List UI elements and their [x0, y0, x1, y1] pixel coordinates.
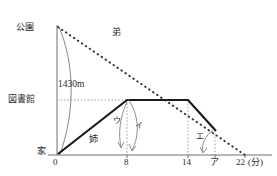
brother-label: 弟 [112, 28, 121, 37]
arrow-u-head [118, 142, 124, 148]
sister-label: 姉 [89, 135, 98, 144]
x-axis-unit: (分) [248, 158, 263, 167]
distance-time-graph-figure: 公園 図書館 家 0 8 14 ア 22 (分) 1430m 弟 姉 ウ イ エ [0, 0, 277, 176]
arrow-label-e: エ [196, 133, 204, 141]
x-label-22: 22 [236, 158, 245, 167]
distance-label-1430m: 1430m [58, 80, 84, 90]
arrow-e-head [200, 147, 207, 153]
y-label-park: 公園 [16, 23, 34, 32]
y-label-library: 図書館 [8, 95, 35, 104]
arrow-label-u: ウ [113, 117, 121, 125]
x-label-8: 8 [124, 158, 129, 167]
arrow-label-i: イ [135, 122, 143, 130]
y-label-home: 家 [37, 147, 46, 156]
x-label-0: 0 [53, 158, 58, 167]
arrow-i-head [129, 144, 136, 151]
x-label-a: ア [210, 158, 219, 167]
distance-brace-1430m [59, 27, 71, 154]
x-label-14: 14 [182, 158, 191, 167]
brother-dotted-line [58, 27, 245, 155]
